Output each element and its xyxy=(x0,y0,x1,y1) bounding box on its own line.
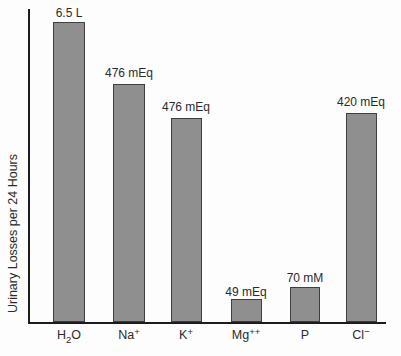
bar-mg xyxy=(231,299,262,322)
y-axis-line xyxy=(28,9,30,324)
category-text: Na xyxy=(118,328,134,342)
category-superscript: − xyxy=(364,326,370,337)
category-text: Cl xyxy=(352,328,364,342)
x-axis-line xyxy=(28,322,386,324)
bar-chart-figure: Urinary Losses per 24 Hours 6.5 L H2O 47… xyxy=(0,0,401,356)
bar-h2o xyxy=(53,22,85,322)
category-text: Mg xyxy=(232,328,249,342)
category-label-cl: Cl− xyxy=(321,328,401,343)
category-superscript: + xyxy=(187,326,193,337)
bar-value-label-cl: 420 mEq xyxy=(321,95,401,109)
category-text: P xyxy=(301,328,309,342)
category-subscript: 2 xyxy=(66,334,71,345)
y-axis-title: Urinary Losses per 24 Hours xyxy=(6,149,21,319)
bar-cl xyxy=(346,113,377,322)
bar-na xyxy=(113,84,145,322)
category-text: O xyxy=(71,328,81,342)
bar-value-label-p: 70 mM xyxy=(265,271,345,285)
bar-value-label-mg: 49 mEq xyxy=(206,285,286,299)
bar-k xyxy=(171,118,202,322)
bar-value-label-na: 476 mEq xyxy=(89,66,169,80)
bar-value-label-h2o: 6.5 L xyxy=(29,6,109,20)
bar-value-label-k: 476 mEq xyxy=(146,100,226,114)
category-superscript: + xyxy=(134,326,140,337)
bar-p xyxy=(290,287,320,322)
category-text: H xyxy=(57,328,66,342)
category-superscript: ++ xyxy=(249,326,260,337)
